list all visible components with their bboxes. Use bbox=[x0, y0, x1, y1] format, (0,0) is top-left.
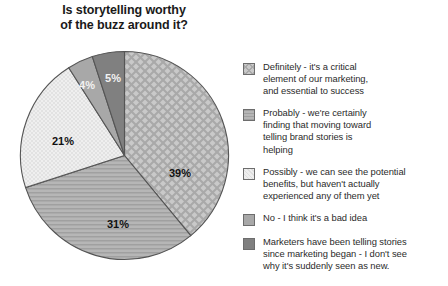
legend-label-1-line-2: element of our marketing, bbox=[263, 73, 368, 85]
chart-title-line-1: Is storytelling worthy bbox=[18, 3, 230, 18]
legend-label-3-line-3: experienced any of them yet bbox=[263, 190, 406, 202]
legend-label-4-line-1: No - I think it's a bad idea bbox=[263, 212, 367, 224]
legend-label-5-line-1: Marketers have been telling stories bbox=[263, 236, 407, 248]
legend-item-marketers[interactable]: Marketers have been telling stories sinc… bbox=[243, 236, 445, 272]
legend-swatch-icon-1 bbox=[243, 63, 255, 75]
pie-label-2: 31% bbox=[107, 218, 129, 230]
pie-chart-svg: 39%31%21%4%5% bbox=[19, 44, 231, 268]
legend-label-5-line-3: why it's suddenly seen as new. bbox=[263, 260, 407, 272]
legend-item-possibly[interactable]: Possibly - we can see the potential bene… bbox=[243, 166, 445, 202]
legend-label-5: Marketers have been telling stories sinc… bbox=[263, 236, 407, 272]
pie-label-3: 21% bbox=[52, 135, 74, 147]
pie-label-1: 39% bbox=[169, 167, 191, 179]
pie-chart: 39%31%21%4%5% bbox=[19, 44, 231, 268]
legend-item-probably[interactable]: Probably - we're certainly finding that … bbox=[243, 107, 445, 155]
legend-label-2-line-3: telling brand stories is bbox=[263, 131, 371, 143]
pie-chart-figure: Is storytelling worthy of the buzz aroun… bbox=[0, 0, 448, 286]
chart-title-line-2: of the buzz around it? bbox=[18, 18, 230, 33]
legend-swatch-icon-2 bbox=[243, 109, 255, 121]
legend-label-5-line-2: since marketing began - I don't see bbox=[263, 248, 407, 260]
legend-label-3-line-2: benefits, but haven't actually bbox=[263, 178, 406, 190]
legend-label-3: Possibly - we can see the potential bene… bbox=[263, 166, 406, 202]
pie-label-4: 4% bbox=[79, 79, 95, 91]
legend-label-2: Probably - we're certainly finding that … bbox=[263, 107, 371, 155]
chart-legend: Definitely - it's a critical element of … bbox=[243, 61, 445, 282]
legend-label-2-line-1: Probably - we're certainly bbox=[263, 107, 371, 119]
legend-label-2-line-4: helping bbox=[263, 144, 371, 156]
chart-title: Is storytelling worthy of the buzz aroun… bbox=[18, 3, 230, 33]
legend-item-definitely[interactable]: Definitely - it's a critical element of … bbox=[243, 61, 445, 97]
legend-label-4: No - I think it's a bad idea bbox=[263, 212, 367, 224]
legend-label-1: Definitely - it's a critical element of … bbox=[263, 61, 368, 97]
legend-label-2-line-2: finding that moving toward bbox=[263, 119, 371, 131]
legend-label-3-line-1: Possibly - we can see the potential bbox=[263, 166, 406, 178]
legend-swatch-icon-4 bbox=[243, 214, 255, 226]
legend-item-no[interactable]: No - I think it's a bad idea bbox=[243, 212, 445, 226]
pie-label-5: 5% bbox=[105, 72, 121, 84]
legend-swatch-icon-5 bbox=[243, 238, 255, 250]
legend-swatch-icon-3 bbox=[243, 168, 255, 180]
legend-label-1-line-1: Definitely - it's a critical bbox=[263, 61, 368, 73]
legend-label-1-line-3: and essential to success bbox=[263, 85, 368, 97]
